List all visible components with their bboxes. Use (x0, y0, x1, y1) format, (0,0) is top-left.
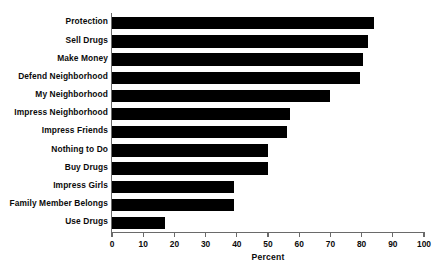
bar-buy-drugs (112, 162, 268, 174)
x-tick-label: 60 (284, 239, 314, 249)
x-tick-label: 10 (128, 239, 158, 249)
x-tick-label: 70 (315, 239, 345, 249)
category-label-make-money: Make Money (4, 53, 108, 63)
bar-row (112, 196, 424, 214)
x-tick-label: 0 (97, 239, 127, 249)
x-tick-label: 40 (222, 239, 252, 249)
bar-row (112, 178, 424, 196)
category-label-use-drugs: Use Drugs (4, 216, 108, 226)
bar-nothing-to-do (112, 144, 268, 156)
category-label-family-member-belongs: Family Member Belongs (4, 198, 108, 208)
bar-chart-figure: Protection Sell Drugs Make Money Defend … (0, 0, 440, 270)
bar-row (112, 123, 424, 141)
bar-protection (112, 17, 374, 29)
x-axis-title: Percent (112, 252, 424, 262)
bar-impress-neighborhood (112, 108, 290, 120)
x-tick-mark (111, 232, 112, 237)
bar-row (112, 69, 424, 87)
category-label-defend-neighborhood: Defend Neighborhood (4, 71, 108, 81)
category-label-my-neighborhood: My Neighborhood (4, 89, 108, 99)
bar-use-drugs (112, 217, 165, 229)
x-tick-mark (330, 232, 331, 237)
x-tick-label: 100 (409, 239, 439, 249)
bar-make-money (112, 53, 363, 65)
bar-row (112, 50, 424, 68)
x-tick-mark (361, 232, 362, 237)
bar-row (112, 159, 424, 177)
bar-sell-drugs (112, 35, 368, 47)
plot-area (112, 14, 424, 232)
x-tick-mark (299, 232, 300, 237)
x-tick-mark (267, 232, 268, 237)
category-label-impress-friends: Impress Friends (4, 125, 108, 135)
x-tick-label: 30 (191, 239, 221, 249)
bar-row (112, 32, 424, 50)
bar-row (112, 141, 424, 159)
bar-my-neighborhood (112, 90, 330, 102)
bar-defend-neighborhood (112, 72, 360, 84)
category-label-protection: Protection (4, 16, 108, 26)
category-label-impress-girls: Impress Girls (4, 180, 108, 190)
bar-row (112, 105, 424, 123)
x-tick-label: 90 (378, 239, 408, 249)
category-label-sell-drugs: Sell Drugs (4, 35, 108, 45)
bar-row (112, 14, 424, 32)
category-label-impress-neighborhood: Impress Neighborhood (4, 107, 108, 117)
x-tick-label: 80 (347, 239, 377, 249)
x-tick-label: 50 (253, 239, 283, 249)
x-tick-mark (423, 232, 424, 237)
bar-row (112, 87, 424, 105)
x-tick-label: 20 (159, 239, 189, 249)
bar-impress-friends (112, 126, 287, 138)
bar-impress-girls (112, 181, 234, 193)
y-axis-category-labels: Protection Sell Drugs Make Money Defend … (0, 14, 108, 232)
bar-row (112, 214, 424, 232)
x-tick-mark (143, 232, 144, 237)
bar-family-member-belongs (112, 199, 234, 211)
category-label-nothing-to-do: Nothing to Do (4, 144, 108, 154)
x-tick-mark (392, 232, 393, 237)
category-label-buy-drugs: Buy Drugs (4, 162, 108, 172)
x-tick-mark (205, 232, 206, 237)
x-tick-mark (174, 232, 175, 237)
x-tick-mark (236, 232, 237, 237)
